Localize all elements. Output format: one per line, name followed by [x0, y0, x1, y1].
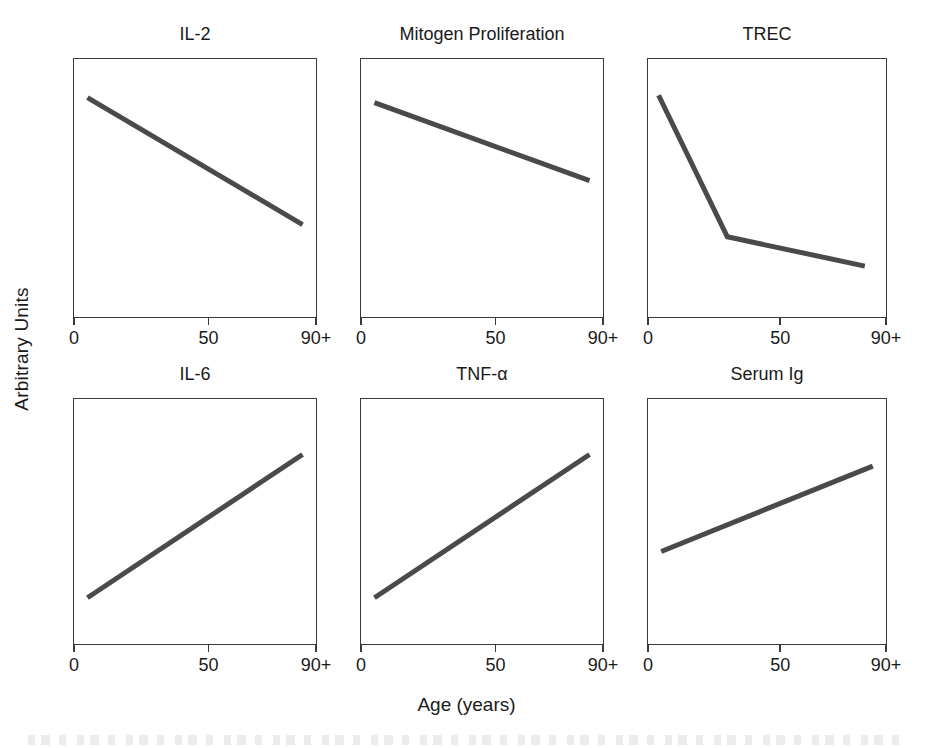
data-series-line	[647, 398, 887, 645]
x-axis-tick-mark	[885, 645, 887, 652]
figure-caption-fragment	[28, 735, 905, 745]
panel-title: Serum Ig	[647, 364, 887, 385]
x-axis-tick-mark	[779, 645, 781, 652]
chart-panel: Serum Ig05090+	[0, 0, 933, 748]
x-axis-tick-label: 50	[770, 655, 790, 676]
x-axis-tick-label: 0	[643, 655, 653, 676]
figure-panel-grid: Arbitrary Units IL-205090+Mitogen Prolif…	[0, 0, 933, 748]
x-axis-label: Age (years)	[0, 694, 933, 716]
x-axis-tick-label: 90+	[871, 655, 902, 676]
x-axis-tick-mark	[647, 645, 649, 652]
